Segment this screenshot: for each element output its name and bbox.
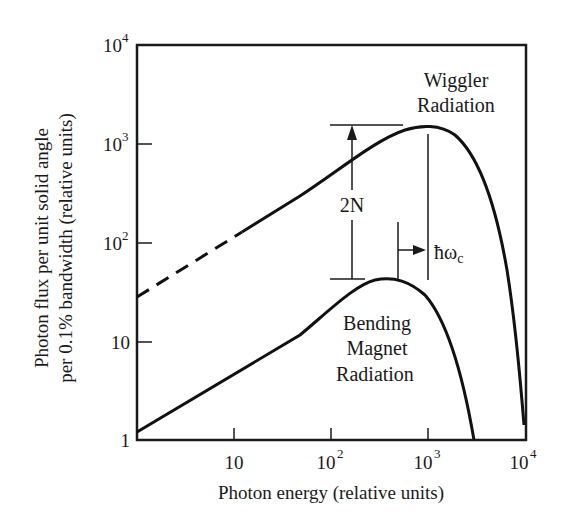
x-axis-ticks: [234, 428, 428, 440]
arrow-right-icon: [413, 245, 426, 255]
y-tick-1000: 10: [103, 134, 122, 155]
x-tick-10000-exp: 4: [530, 446, 537, 461]
two-n-label: 2N: [340, 194, 364, 216]
y-tick-10000-exp: 4: [122, 30, 129, 45]
wiggler-curve-dashed: [137, 232, 242, 297]
y-axis-title-line1: Photon flux per unit solid angle: [31, 128, 52, 368]
x-axis-labels: 10 10 2 10 3 10 4: [225, 446, 538, 473]
y-axis-title-line2: per 0.1% bandwidth (relative units): [55, 113, 77, 383]
bending-magnet-curve: [137, 279, 474, 440]
y-axis-labels: 1 10 10 2 10 3 10 4: [103, 30, 130, 451]
arrow-up-icon: [347, 125, 357, 140]
x-tick-10000: 10: [510, 452, 529, 473]
x-tick-100-exp: 2: [337, 446, 344, 461]
y-tick-10: 10: [111, 332, 130, 353]
x-tick-100: 10: [317, 452, 336, 473]
hbar-omega-label: ħωc: [434, 241, 463, 266]
y-axis-title: Photon flux per unit solid angle per 0.1…: [31, 113, 77, 383]
y-tick-1000-exp: 3: [122, 129, 129, 144]
bending-label-line1: Bending: [343, 312, 411, 335]
wiggler-label-line1: Wiggler: [424, 69, 489, 92]
bending-label-line3: Radiation: [336, 363, 414, 385]
x-tick-1000: 10: [414, 452, 433, 473]
bending-label-line2: Magnet: [346, 337, 408, 360]
critical-energy-annotation: [398, 134, 428, 280]
y-axis-ticks: [137, 144, 152, 342]
y-tick-100-exp: 2: [122, 228, 129, 243]
y-tick-10000: 10: [103, 35, 122, 56]
x-tick-1000-exp: 3: [434, 446, 441, 461]
wiggler-label-line2: Radiation: [417, 94, 495, 116]
x-tick-10: 10: [225, 452, 244, 473]
x-axis-title: Photon energy (relative units): [218, 482, 444, 504]
flux-vs-energy-chart: 1 10 10 2 10 3 10 4 10 10 2 10 3 10 4 Ph…: [0, 0, 562, 523]
y-tick-1: 1: [121, 430, 131, 451]
y-tick-100: 10: [103, 233, 122, 254]
